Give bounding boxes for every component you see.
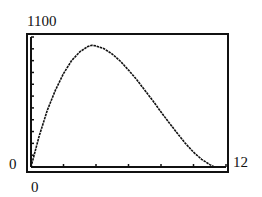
- tick-marks: [31, 37, 226, 167]
- window-frame: [27, 34, 228, 172]
- chart-plot: [0, 0, 262, 197]
- data-curve: [31, 45, 215, 167]
- axes: [31, 37, 226, 167]
